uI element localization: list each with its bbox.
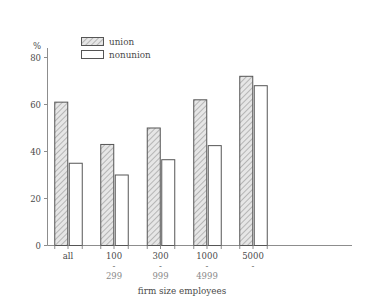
bars-layer bbox=[55, 76, 268, 245]
x-category-label-sep-4: - bbox=[252, 261, 255, 271]
x-category-label-top-3: 1000 bbox=[196, 251, 218, 261]
x-category-label-top-0: all bbox=[63, 251, 74, 261]
y-tick-group: % 80 60 40 20 0 bbox=[30, 41, 47, 251]
bar-nonunion-1000-4999 bbox=[208, 146, 221, 246]
y-tick-label-0: 0 bbox=[36, 241, 41, 251]
y-axis-unit-label: % bbox=[33, 41, 41, 51]
legend-label-nonunion: nonunion bbox=[109, 50, 151, 60]
x-category-label-group: all100-299300-9991000-49995000- bbox=[63, 251, 264, 281]
bar-nonunion-100-299 bbox=[115, 175, 128, 246]
x-category-label-sep-1: - bbox=[113, 261, 116, 271]
y-tick-label-20: 20 bbox=[30, 194, 41, 204]
bar-union-all bbox=[55, 102, 68, 245]
y-tick-label-80: 80 bbox=[30, 53, 41, 63]
y-tick-label-40: 40 bbox=[30, 147, 41, 157]
bar-union-1000-4999 bbox=[194, 100, 207, 246]
bar-nonunion-300-999 bbox=[162, 160, 175, 246]
y-tick-label-60: 60 bbox=[30, 100, 41, 110]
x-category-label-bottom-3: 4999 bbox=[196, 271, 218, 281]
legend-swatch-nonunion bbox=[82, 51, 104, 59]
bar-union-100-299 bbox=[101, 144, 114, 245]
x-category-label-sep-3: - bbox=[206, 261, 209, 271]
bar-nonunion-all bbox=[69, 163, 82, 245]
x-category-label-bottom-2: 999 bbox=[152, 271, 168, 281]
legend: union nonunion bbox=[82, 37, 152, 60]
bar-nonunion-5000- bbox=[254, 86, 267, 246]
x-category-label-bottom-1: 299 bbox=[106, 271, 122, 281]
bar-union-300-999 bbox=[147, 128, 160, 246]
bar-chart-figure: % 80 60 40 20 0 all100-299300-9991000-49… bbox=[0, 0, 373, 306]
x-category-label-top-1: 100 bbox=[106, 251, 122, 261]
x-category-label-top-2: 300 bbox=[152, 251, 168, 261]
chart-canvas: % 80 60 40 20 0 all100-299300-9991000-49… bbox=[0, 0, 373, 306]
legend-swatch-union bbox=[82, 38, 104, 46]
legend-label-union: union bbox=[109, 37, 134, 47]
x-tick-group bbox=[55, 246, 268, 250]
x-category-label-top-4: 5000 bbox=[242, 251, 264, 261]
bar-union-5000- bbox=[240, 76, 253, 245]
x-category-label-sep-2: - bbox=[159, 261, 162, 271]
x-axis-title: firm size employees bbox=[138, 286, 227, 296]
